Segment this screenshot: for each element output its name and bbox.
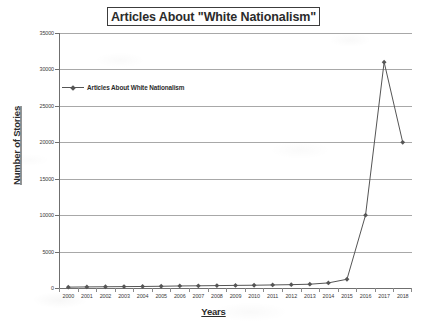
x-axis-tick-mark xyxy=(393,288,394,292)
x-axis-tick-mark xyxy=(208,288,209,292)
chart-legend: Articles About White Nationalism xyxy=(62,84,184,91)
y-axis-tick-label: 5000 xyxy=(24,249,54,255)
gridline xyxy=(59,179,412,180)
y-axis-tick-label: 10000 xyxy=(24,212,54,218)
y-axis-tick-mark xyxy=(55,215,59,216)
y-axis-tick-mark xyxy=(55,142,59,143)
y-axis-tick-label: 35000 xyxy=(24,30,54,36)
x-axis-tick-mark xyxy=(245,288,246,292)
y-axis-tick-mark xyxy=(55,106,59,107)
x-axis-tick-mark xyxy=(96,288,97,292)
x-axis-tick-label: 2018 xyxy=(392,293,414,299)
gridline xyxy=(59,106,412,107)
x-axis-tick-mark xyxy=(115,288,116,292)
x-axis-tick-mark xyxy=(59,288,60,292)
y-axis-tick-mark xyxy=(55,179,59,180)
gridline xyxy=(59,142,412,143)
x-axis-line xyxy=(59,288,412,289)
x-axis-tick-mark xyxy=(411,288,412,292)
legend-line-marker-icon xyxy=(62,84,84,91)
y-axis-tick-label: 20000 xyxy=(24,139,54,145)
y-axis-title: Number of Stories xyxy=(11,94,22,198)
y-axis-tick-label: 0 xyxy=(24,285,54,291)
y-axis-tick-labels: 05000100001500020000250003000035000 xyxy=(22,0,54,333)
gridline xyxy=(59,215,412,216)
y-axis-line xyxy=(59,33,60,289)
x-axis-tick-mark xyxy=(170,288,171,292)
x-axis-title: Years xyxy=(0,306,427,317)
y-axis-tick-mark xyxy=(55,33,59,34)
x-axis-tick-mark xyxy=(338,288,339,292)
x-axis-tick-mark xyxy=(263,288,264,292)
gridline xyxy=(59,252,412,253)
gridline xyxy=(59,69,412,70)
legend-entry-label: Articles About White Nationalism xyxy=(87,84,184,91)
x-axis-tick-mark xyxy=(319,288,320,292)
x-axis-tick-mark xyxy=(78,288,79,292)
x-axis-tick-mark xyxy=(133,288,134,292)
y-axis-tick-label: 15000 xyxy=(24,176,54,182)
y-axis-tick-mark xyxy=(55,252,59,253)
y-axis-tick-label: 30000 xyxy=(24,66,54,72)
y-axis-tick-mark xyxy=(55,69,59,70)
x-axis-tick-mark xyxy=(282,288,283,292)
y-axis-tick-label: 25000 xyxy=(24,103,54,109)
x-axis-tick-mark xyxy=(356,288,357,292)
x-axis-tick-mark xyxy=(189,288,190,292)
plot-area xyxy=(59,33,412,288)
x-axis-tick-mark xyxy=(301,288,302,292)
x-axis-tick-mark xyxy=(375,288,376,292)
chart-title: Articles About "White Nationalism" xyxy=(107,7,320,26)
x-axis-tick-mark xyxy=(152,288,153,292)
gridline xyxy=(59,33,412,34)
x-axis-tick-mark xyxy=(226,288,227,292)
x-axis-tick-labels: 2000200120022003200420052006200720082009… xyxy=(59,293,412,305)
